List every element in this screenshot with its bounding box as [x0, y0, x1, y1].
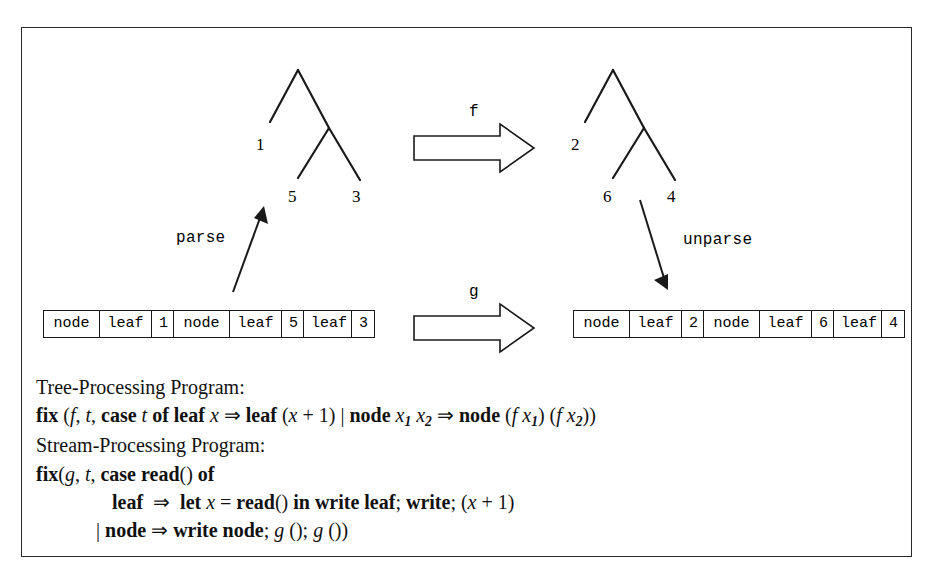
code-token: (: [282, 404, 289, 426]
code-token: g: [65, 463, 75, 485]
tape-cell: 5: [282, 311, 304, 337]
code-token: x: [210, 404, 219, 426]
arrow-label-parse: parse: [176, 230, 226, 246]
left-tree-edge-root-inner: [298, 70, 329, 128]
left-tree-leaf-label-3: 3: [352, 188, 361, 205]
code-token: ⇒: [151, 519, 173, 541]
code-token: ();: [284, 519, 313, 541]
tree-program-heading: Tree-Processing Program:: [36, 373, 896, 401]
right-tree-leaf-label-4: 4: [667, 188, 676, 205]
right-tree-edge-root-left: [585, 70, 613, 122]
code-token: g: [313, 519, 323, 541]
parse-arrow: [233, 206, 268, 292]
right-tree-edge-inner-right: [644, 128, 675, 180]
stream-program-heading: Stream-Processing Program:: [36, 431, 896, 459]
code-token: 1: [531, 414, 538, 429]
code-token: g: [274, 519, 284, 541]
code-token: ,: [75, 404, 85, 426]
code-token: 2: [576, 414, 583, 429]
code-token: node: [349, 404, 395, 426]
code-token: case: [101, 404, 142, 426]
code-token: + 1) |: [297, 404, 349, 426]
code-token: ,: [90, 463, 100, 485]
figure-frame: 1 5 3 2 6 4 f g parse unparse node leaf …: [21, 27, 912, 557]
code-token: ; (: [450, 491, 467, 513]
arrow-label-g: g: [469, 284, 479, 300]
code-token: let: [175, 491, 206, 513]
tape-cell: 4: [882, 311, 904, 337]
code-token: ;: [395, 491, 406, 513]
code-token: x: [567, 404, 576, 426]
tape-cell: node: [574, 311, 630, 337]
code-token: ,: [75, 463, 85, 485]
tape-cell: 3: [352, 311, 374, 337]
code-token: ,: [91, 404, 101, 426]
code-token: (: [58, 463, 65, 485]
stream-program-code-line-2: leaf ⇒ let x = read() in write leaf; wri…: [36, 488, 896, 516]
code-token: fix: [36, 463, 58, 485]
tape-cell: 2: [682, 311, 704, 337]
code-token: (: [63, 404, 70, 426]
right-tree-leaf-label-6: 6: [603, 188, 612, 205]
right-tree-edge-root-inner: [613, 70, 644, 128]
code-token: case read: [100, 463, 179, 485]
code-token: =: [215, 491, 236, 513]
left-tree-edge-inner-right: [329, 128, 360, 180]
tape-cell: leaf: [304, 311, 352, 337]
code-token: read: [236, 491, 275, 513]
tape-cell: leaf: [100, 311, 152, 337]
tape-cell: leaf: [834, 311, 882, 337]
program-text-block: Tree-Processing Program: fix (f, t, case…: [36, 373, 896, 545]
code-token: ;: [264, 519, 275, 541]
tape-cell: node: [44, 311, 100, 337]
code-token: x: [416, 404, 425, 426]
tape-cell: leaf: [760, 311, 812, 337]
block-arrow-g: [414, 304, 534, 352]
code-token: write node: [173, 519, 264, 541]
code-token: of: [198, 463, 215, 485]
code-token: + 1): [476, 491, 514, 513]
code-token: leaf: [112, 491, 148, 513]
code-token: 2: [425, 414, 432, 429]
left-tree-edge-inner-left: [298, 128, 329, 178]
code-token: (): [180, 463, 198, 485]
code-token: node: [105, 519, 151, 541]
code-token: leaf: [174, 404, 210, 426]
block-arrow-f: [414, 124, 534, 172]
arrow-label-f: f: [469, 104, 479, 120]
code-token: ) (: [538, 404, 556, 426]
code-token: of: [147, 404, 174, 426]
tape-cell: leaf: [230, 311, 282, 337]
left-tree-leaf-label-1: 1: [256, 136, 265, 153]
code-token: ()): [323, 519, 348, 541]
code-token: ⇒: [148, 491, 175, 513]
code-token: ⇒: [432, 404, 459, 426]
code-token: (: [505, 404, 512, 426]
diagram-canvas: [22, 28, 913, 358]
right-tree-leaf-label-2: 2: [571, 136, 580, 153]
stream-program-code-line-1: fix(g, t, case read() of: [36, 460, 896, 488]
tape-cell: 1: [152, 311, 174, 337]
arrow-label-unparse: unparse: [683, 232, 752, 248]
output-stream-tape: node leaf 2 node leaf 6 leaf 4: [573, 310, 905, 338]
code-token: (): [275, 491, 293, 513]
code-token: fix: [36, 404, 63, 426]
code-token: leaf: [246, 404, 282, 426]
tape-cell: 6: [812, 311, 834, 337]
code-token: ⇒: [219, 404, 246, 426]
unparse-arrow: [640, 200, 668, 290]
left-tree-leaf-label-5: 5: [288, 188, 297, 205]
tape-cell: leaf: [630, 311, 682, 337]
code-token: in write leaf: [293, 491, 395, 513]
right-tree-edge-inner-left: [613, 128, 644, 178]
left-tree-edge-root-left: [270, 70, 298, 122]
input-stream-tape: node leaf 1 node leaf 5 leaf 3: [43, 310, 375, 338]
tape-cell: node: [704, 311, 760, 337]
code-token: |: [96, 519, 105, 541]
stream-program-code-line-3: | node ⇒ write node; g (); g ()): [36, 516, 896, 544]
code-token: x: [206, 491, 215, 513]
code-token: x: [522, 404, 531, 426]
code-token: write: [406, 491, 450, 513]
tape-cell: node: [174, 311, 230, 337]
tree-program-code: fix (f, t, case t of leaf x ⇒ leaf (x + …: [36, 401, 896, 431]
